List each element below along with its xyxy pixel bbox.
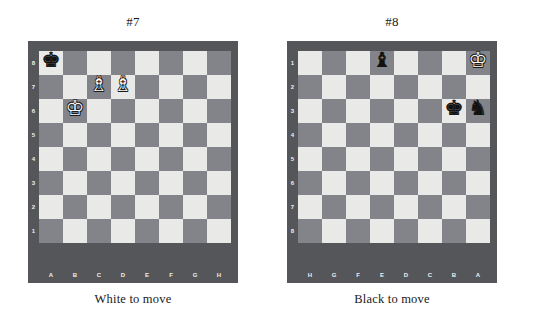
square-a4[interactable] <box>39 147 63 171</box>
piece-black-knight-a3[interactable]: ♞ <box>466 99 490 122</box>
square-c4[interactable] <box>418 123 442 147</box>
square-b1[interactable] <box>442 51 466 75</box>
piece-black-king-a8[interactable]: ♚ <box>39 51 63 74</box>
square-d3[interactable] <box>111 171 135 195</box>
square-e3[interactable] <box>135 171 159 195</box>
square-b8[interactable] <box>63 51 87 75</box>
square-f4[interactable] <box>346 123 370 147</box>
square-c8[interactable] <box>87 51 111 75</box>
square-e2[interactable] <box>370 75 394 99</box>
piece-white-bishop-d7[interactable]: ♗ <box>111 75 135 98</box>
square-b2[interactable] <box>442 75 466 99</box>
square-a5[interactable] <box>39 123 63 147</box>
square-c6[interactable] <box>418 171 442 195</box>
square-b6[interactable] <box>442 171 466 195</box>
square-h6[interactable] <box>207 99 231 123</box>
square-b7[interactable] <box>63 75 87 99</box>
square-d1[interactable] <box>111 219 135 243</box>
board-grid[interactable]: ♝♔♚♞ <box>298 51 490 243</box>
square-e2[interactable] <box>135 195 159 219</box>
square-g5[interactable] <box>322 147 346 171</box>
square-f7[interactable] <box>159 75 183 99</box>
piece-white-bishop-c7[interactable]: ♗ <box>87 75 111 98</box>
square-g4[interactable] <box>183 147 207 171</box>
square-g2[interactable] <box>183 195 207 219</box>
square-c6[interactable] <box>87 99 111 123</box>
square-c7[interactable] <box>418 195 442 219</box>
square-d6[interactable] <box>111 99 135 123</box>
square-a8[interactable]: ♚ <box>39 51 63 75</box>
square-e4[interactable] <box>370 123 394 147</box>
square-b4[interactable] <box>63 147 87 171</box>
square-c1[interactable] <box>87 219 111 243</box>
square-d3[interactable] <box>394 99 418 123</box>
square-a1[interactable]: ♔ <box>466 51 490 75</box>
square-g2[interactable] <box>322 75 346 99</box>
square-d8[interactable] <box>394 219 418 243</box>
square-a3[interactable]: ♞ <box>466 99 490 123</box>
square-h7[interactable] <box>207 75 231 99</box>
square-h3[interactable] <box>298 99 322 123</box>
square-e4[interactable] <box>135 147 159 171</box>
square-d4[interactable] <box>111 147 135 171</box>
square-g4[interactable] <box>322 123 346 147</box>
square-h8[interactable] <box>207 51 231 75</box>
square-b4[interactable] <box>442 123 466 147</box>
square-d5[interactable] <box>394 147 418 171</box>
piece-black-bishop-e1[interactable]: ♝ <box>370 51 394 74</box>
square-f1[interactable] <box>159 219 183 243</box>
square-h4[interactable] <box>298 123 322 147</box>
square-e3[interactable] <box>370 99 394 123</box>
square-b2[interactable] <box>63 195 87 219</box>
square-b5[interactable] <box>63 123 87 147</box>
square-g5[interactable] <box>183 123 207 147</box>
square-a2[interactable] <box>466 75 490 99</box>
piece-white-king-a1[interactable]: ♔ <box>466 51 490 74</box>
square-a8[interactable] <box>466 219 490 243</box>
square-f3[interactable] <box>346 99 370 123</box>
square-e7[interactable] <box>135 75 159 99</box>
square-g6[interactable] <box>322 171 346 195</box>
square-b8[interactable] <box>442 219 466 243</box>
square-g6[interactable] <box>183 99 207 123</box>
square-e1[interactable] <box>135 219 159 243</box>
square-f6[interactable] <box>346 171 370 195</box>
square-a1[interactable] <box>39 219 63 243</box>
square-a3[interactable] <box>39 171 63 195</box>
square-f5[interactable] <box>159 123 183 147</box>
square-a6[interactable] <box>466 171 490 195</box>
square-c3[interactable] <box>87 171 111 195</box>
square-d6[interactable] <box>394 171 418 195</box>
square-c2[interactable] <box>87 195 111 219</box>
square-a5[interactable] <box>466 147 490 171</box>
square-g3[interactable] <box>183 171 207 195</box>
square-d2[interactable] <box>111 195 135 219</box>
square-f7[interactable] <box>346 195 370 219</box>
piece-white-king-b6[interactable]: ♔ <box>63 99 87 122</box>
square-f2[interactable] <box>346 75 370 99</box>
square-a4[interactable] <box>466 123 490 147</box>
square-f1[interactable] <box>346 51 370 75</box>
square-h1[interactable] <box>207 219 231 243</box>
square-h5[interactable] <box>298 147 322 171</box>
square-g3[interactable] <box>322 99 346 123</box>
square-b3[interactable]: ♚ <box>442 99 466 123</box>
square-b7[interactable] <box>442 195 466 219</box>
square-e8[interactable] <box>370 219 394 243</box>
square-f2[interactable] <box>159 195 183 219</box>
square-c4[interactable] <box>87 147 111 171</box>
square-e6[interactable] <box>135 99 159 123</box>
square-g7[interactable] <box>183 75 207 99</box>
square-f4[interactable] <box>159 147 183 171</box>
square-f5[interactable] <box>346 147 370 171</box>
square-c1[interactable] <box>418 51 442 75</box>
square-g8[interactable] <box>183 51 207 75</box>
square-a6[interactable] <box>39 99 63 123</box>
square-e1[interactable]: ♝ <box>370 51 394 75</box>
square-c7[interactable]: ♗ <box>87 75 111 99</box>
square-c5[interactable] <box>418 147 442 171</box>
chessboard[interactable]: 12345678 ♝♔♚♞ HGFEDCBA <box>287 41 497 283</box>
piece-black-king-b3[interactable]: ♚ <box>442 99 466 122</box>
square-h7[interactable] <box>298 195 322 219</box>
square-h1[interactable] <box>298 51 322 75</box>
